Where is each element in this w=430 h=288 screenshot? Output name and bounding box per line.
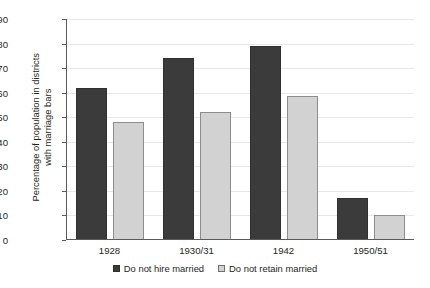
legend-label-do-not-hire-married: Do not hire married <box>124 263 204 274</box>
y-axis-title: Percentage of population in districts wi… <box>30 12 54 242</box>
legend-swatch-icon-dark <box>113 265 120 272</box>
legend-item-do-not-retain-married[interactable]: Do not retain married <box>218 263 317 274</box>
axis-frame <box>66 19 414 240</box>
y-tick-label: 30 <box>0 161 8 172</box>
legend-label-do-not-retain-married: Do not retain married <box>229 263 317 274</box>
bar-chart: Percentage of population in districts wi… <box>0 0 430 288</box>
legend-item-do-not-hire-married[interactable]: Do not hire married <box>113 263 204 274</box>
x-tick-label: 1942 <box>273 245 294 256</box>
legend: Do not hire married Do not retain marrie… <box>0 263 430 274</box>
y-axis-title-line-1: Percentage of population in districts <box>30 12 42 242</box>
y-tick-mark <box>62 240 66 241</box>
y-tick-label: 70 <box>0 63 8 74</box>
y-tick-label: 60 <box>0 87 8 98</box>
y-tick-label: 20 <box>0 185 8 196</box>
y-tick-label: 0 <box>0 235 8 246</box>
legend-swatch-icon-light <box>218 265 225 272</box>
y-tick-label: 40 <box>0 136 8 147</box>
y-tick-label: 50 <box>0 112 8 123</box>
y-axis-title-line-2: with marriage bars <box>42 12 54 242</box>
x-tick-label: 1950/51 <box>353 245 388 256</box>
y-tick-label: 90 <box>0 14 8 25</box>
x-tick-label: 1930/31 <box>179 245 214 256</box>
plot-area <box>66 19 414 240</box>
x-tick-label: 1928 <box>99 245 120 256</box>
y-tick-label: 80 <box>0 38 8 49</box>
y-tick-label: 10 <box>0 210 8 221</box>
